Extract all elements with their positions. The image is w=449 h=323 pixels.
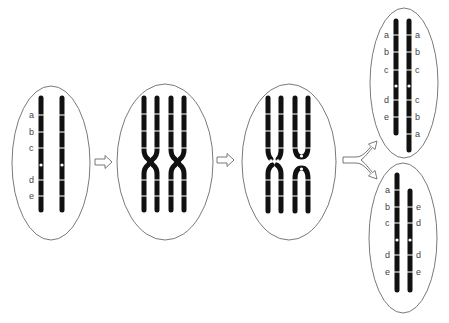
centromere (60, 163, 63, 166)
centromere (300, 154, 303, 157)
split-arrow-icon (343, 141, 377, 179)
meiosis-diagram: a b c d e (0, 0, 449, 323)
gene-label: c (29, 143, 34, 153)
arrow-right-icon (217, 154, 234, 167)
cell-5-outline (369, 163, 437, 313)
gene-label: e (385, 267, 390, 277)
gene-label: b (385, 202, 390, 212)
centromere (276, 159, 280, 163)
gene-label: d (416, 250, 421, 260)
gene-label: e (384, 112, 389, 122)
chromatid-2c (171, 98, 177, 210)
bands-cell-2 (141, 114, 187, 196)
gene-label: d (385, 250, 390, 260)
gene-label: e (416, 267, 421, 277)
centromere (395, 238, 398, 241)
gene-label: b (415, 112, 420, 122)
cell-2-outline (117, 84, 213, 240)
gene-label: b (384, 47, 389, 57)
chromatid-3b-lower (277, 165, 281, 211)
cell-1: a b c d e (12, 86, 90, 240)
arrow-right-icon (95, 156, 112, 169)
centromere (300, 167, 303, 170)
chromatid-3a-lower (268, 165, 272, 211)
centromere (269, 159, 273, 163)
cell-3-outline (242, 84, 336, 240)
labels-cell-4-left: a b c d e (384, 30, 389, 122)
labels-cell-5-left: a b c d e (385, 185, 390, 277)
gene-label: b (415, 47, 420, 57)
gene-label: d (29, 175, 34, 185)
cell-3 (242, 84, 336, 240)
cell-5: a b c d e e d d e (369, 163, 437, 313)
centromere (408, 238, 411, 241)
cell-4-outline (370, 8, 438, 158)
chromatid-3b (278, 98, 281, 159)
labels-cell-1: a b c d e (29, 110, 34, 201)
cell-2 (117, 84, 213, 240)
cell-1-outline (12, 86, 90, 240)
gene-label: c (384, 65, 389, 75)
chromatid-2a (144, 98, 150, 210)
labels-cell-5-right: e d d e (416, 202, 421, 277)
gene-label: c (415, 95, 420, 105)
gene-label: e (416, 202, 421, 212)
gene-label: a (385, 185, 390, 195)
centromere (407, 84, 410, 87)
gene-label: a (384, 30, 389, 40)
cell-4: a b c d e a b c c b a (370, 8, 438, 158)
chromatid-3a (268, 98, 271, 159)
centromere (394, 84, 397, 87)
gene-label: c (385, 218, 390, 228)
gene-label: d (384, 95, 389, 105)
centromere (39, 163, 42, 166)
gene-label: a (415, 30, 420, 40)
gene-label: d (416, 218, 421, 228)
labels-cell-4-right: a b c c b a (415, 30, 420, 139)
gene-label: a (29, 110, 34, 120)
gene-label: c (415, 65, 420, 75)
chromatid-3-loop-bottom (295, 168, 308, 211)
gene-label: e (29, 191, 34, 201)
gene-label: a (415, 129, 420, 139)
chromatid-2b (151, 98, 157, 210)
gene-label: b (29, 127, 34, 137)
chromatid-2d (178, 98, 184, 210)
